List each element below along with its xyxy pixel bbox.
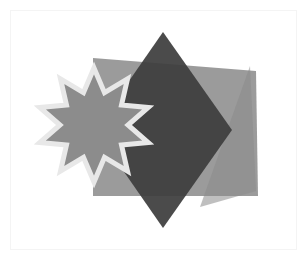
shape-canvas bbox=[0, 0, 307, 260]
image-canvas bbox=[0, 0, 307, 260]
